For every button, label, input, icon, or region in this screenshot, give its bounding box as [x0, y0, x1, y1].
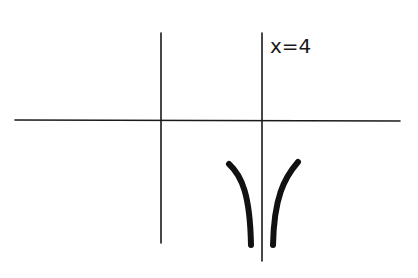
- graph-sketch: x=4: [0, 0, 418, 278]
- right-branch-curve: [273, 162, 298, 245]
- left-branch-curve: [229, 164, 251, 245]
- x-axis: [15, 120, 400, 121]
- asymptote-label: x=4: [270, 34, 311, 58]
